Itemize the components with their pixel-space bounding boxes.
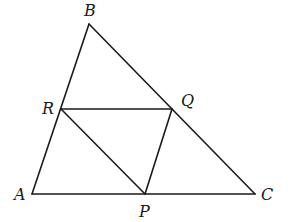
label-B: B — [83, 1, 96, 20]
label-Q: Q — [181, 91, 194, 110]
label-R: R — [41, 99, 54, 118]
label-P: P — [138, 202, 150, 221]
segments-group — [32, 24, 255, 194]
label-C: C — [261, 185, 273, 204]
label-A: A — [12, 185, 26, 204]
triangle-diagram: A B C R Q P — [0, 0, 292, 222]
labels-group: A B C R Q P — [12, 1, 273, 221]
segment-PQ — [145, 109, 172, 194]
segment-RP — [61, 109, 145, 194]
